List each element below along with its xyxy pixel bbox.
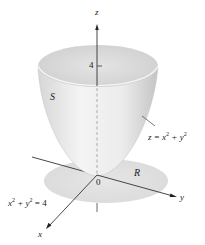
surface-eq-mid: + y — [169, 132, 184, 142]
origin-label: 0 — [96, 178, 101, 187]
surface-eq-lhs: z = x — [148, 132, 166, 142]
boundary-equation: x2 + y2 = 4 — [8, 197, 47, 208]
surface-s-label: S — [50, 92, 55, 102]
boundary-eq-rhs: = 4 — [33, 198, 47, 208]
region-r-label: R — [134, 168, 140, 178]
x-axis-arrow-icon — [46, 223, 51, 229]
x-axis-label: x — [38, 230, 42, 239]
y-axis-arrow-icon — [170, 193, 177, 197]
tick-4-label: 4 — [89, 61, 94, 70]
z-axis-arrow-icon — [95, 24, 99, 30]
boundary-eq-mid: + y — [15, 198, 30, 208]
y-axis-label: y — [180, 193, 184, 202]
paraboloid-figure — [0, 0, 205, 245]
surface-eq-exp2: 2 — [184, 131, 187, 137]
surface-equation: z = x2 + y2 — [148, 131, 187, 142]
z-axis-label: z — [95, 8, 99, 17]
